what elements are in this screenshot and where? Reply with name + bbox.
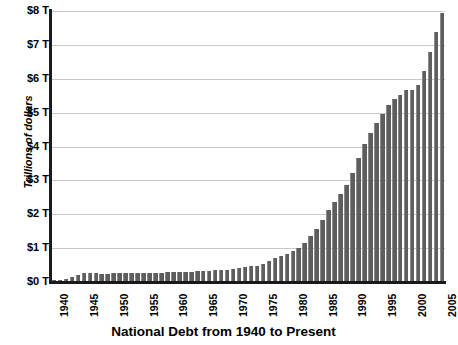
bar [314,229,319,282]
bar [255,266,260,282]
x-tick-label: 1940 [58,294,70,317]
bar [410,90,415,282]
bar [440,13,445,282]
x-tick-label: 2000 [416,294,428,317]
bar [422,71,427,282]
bar [428,52,433,282]
bar [291,251,296,282]
x-tick-label: 1980 [297,294,309,317]
x-tick-label: 1985 [327,294,339,317]
bar [386,105,391,282]
bar [243,267,248,282]
y-tick-label: $6 T [5,72,49,84]
bar [320,220,325,282]
x-tick-label: 1970 [237,294,249,317]
bar [285,254,290,282]
x-tick-label: 1965 [207,294,219,317]
bar [308,236,313,282]
bar [434,32,439,282]
y-axis-line [49,9,52,284]
bar [416,85,421,282]
x-axis-tick-labels: 1940194519501955196019651970197519801985… [0,284,447,324]
x-tick-label: 1955 [148,294,160,317]
bar [398,95,403,282]
bar [392,99,397,282]
y-tick-label: $4 T [5,140,49,152]
bar [380,114,385,282]
y-tick-label: $7 T [5,38,49,50]
bar [350,173,355,282]
bar [332,202,337,282]
chart-title: National Debt from 1940 to Present [0,324,447,339]
bar [237,268,242,282]
x-tick-label: 1995 [386,294,398,317]
plot-area [51,11,445,282]
bar [326,210,331,282]
bar [273,258,278,282]
y-tick-label: $2 T [5,207,49,219]
gridline [51,79,445,80]
x-tick-label: 2005 [446,294,458,317]
x-tick-label: 1975 [267,294,279,317]
gridline [51,45,445,46]
bar [344,185,349,282]
gridline [51,11,445,12]
bar [261,264,266,282]
bar [368,133,373,282]
x-tick-label: 1960 [177,294,189,317]
x-tick-label: 1990 [356,294,368,317]
bar [404,90,409,282]
bar [374,123,379,282]
bar [296,248,301,282]
y-tick-label: $1 T [5,241,49,253]
x-tick-label: 1945 [88,294,100,317]
bar [338,194,343,282]
bar [302,243,307,282]
bar [362,144,367,282]
bar [356,158,361,282]
bar [267,261,272,282]
y-tick-label: $3 T [5,173,49,185]
y-tick-label: $8 T [5,4,49,16]
x-tick-label: 1950 [118,294,130,317]
bar [279,256,284,282]
y-tick-label: $5 T [5,106,49,118]
bar [249,266,254,282]
